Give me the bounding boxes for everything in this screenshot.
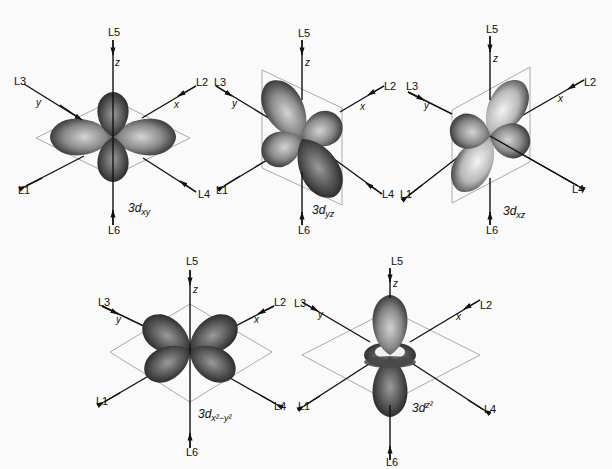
ligand-label-l4: L4 xyxy=(274,400,286,412)
panel-dyz: L5 z L3 y L2 x L1 L4 L6 3dyz xyxy=(214,27,396,236)
axis-label-z: z xyxy=(492,53,498,64)
axis-label-z: z xyxy=(192,284,198,295)
ligand-label-l6: L6 xyxy=(186,446,198,458)
ligand-label-l3: L3 xyxy=(14,75,26,87)
ligand-label-l4: L4 xyxy=(382,188,394,200)
ligand-label-l5: L5 xyxy=(108,26,120,38)
panel-dxz: L5 z L3 y L2 x L1 L4 L6 3dxz xyxy=(400,23,596,236)
ligand-label-l2: L2 xyxy=(274,296,286,308)
ligand-label-l5: L5 xyxy=(186,255,198,267)
ligand-label-l2: L2 xyxy=(480,299,492,311)
ligand-label-l3: L3 xyxy=(214,76,226,88)
caption-dx2-y2: 3dx²−y² xyxy=(198,407,233,423)
ligand-label-l6: L6 xyxy=(108,224,120,236)
ligand-label-l1: L1 xyxy=(298,400,310,412)
panel-dz2: L5 z L3 y L2 x L1 L4 L6 3dz² xyxy=(294,255,496,468)
ligand-label-l4: L4 xyxy=(198,188,210,200)
axis-label-x: x xyxy=(173,99,180,110)
axis-label-z: z xyxy=(304,57,310,68)
ligand-label-l5: L5 xyxy=(486,23,498,35)
ligand-label-l1: L1 xyxy=(18,184,30,196)
ligand-label-l4: L4 xyxy=(572,183,584,195)
ligand-label-l1: L1 xyxy=(96,395,108,407)
axis-label-z: z xyxy=(392,278,398,289)
ligand-label-l6: L6 xyxy=(386,456,398,468)
panel-dx2-y2: L5 z L3 y L2 x L1 L4 L6 3dx²−y² xyxy=(96,255,286,458)
axis-label-x: x xyxy=(359,101,366,112)
ligand-label-l5: L5 xyxy=(391,255,403,267)
caption-dxz: 3dxz xyxy=(503,204,526,220)
axis-label-y: y xyxy=(35,97,42,108)
ligand-label-l1: L1 xyxy=(216,184,228,196)
axis-label-x: x xyxy=(557,93,564,104)
axis-label-x: x xyxy=(455,311,462,322)
axis-label-z: z xyxy=(114,57,120,68)
ligand-label-l3: L3 xyxy=(406,80,418,92)
panel-dxy: L5 z L3 y L2 x L1 L4 L6 3dxy xyxy=(14,26,210,236)
axis-label-y: y xyxy=(115,314,122,325)
ligand-label-l5: L5 xyxy=(298,27,310,39)
ligand-label-l2: L2 xyxy=(384,80,396,92)
axis-label-y: y xyxy=(423,100,430,111)
ligand-label-l2: L2 xyxy=(196,76,208,88)
axis-label-y: y xyxy=(317,309,324,320)
ligand-label-l3: L3 xyxy=(294,297,306,309)
caption-dz2: 3dz² xyxy=(412,400,434,415)
ligand-label-l6: L6 xyxy=(486,224,498,236)
axis-label-x: x xyxy=(253,314,260,325)
ligand-label-l2: L2 xyxy=(584,76,596,88)
ligand-label-l1: L1 xyxy=(400,188,412,200)
ligand-label-l3: L3 xyxy=(98,296,110,308)
caption-dyz: 3dyz xyxy=(312,203,335,219)
d-orbital-diagram: L5 z L3 y L2 x L1 L4 L6 3dxy L5 z L3 y L… xyxy=(0,0,612,469)
caption-dxy: 3dxy xyxy=(128,201,151,217)
ligand-label-l6: L6 xyxy=(298,224,310,236)
axis-label-y: y xyxy=(231,98,238,109)
ligand-label-l4: L4 xyxy=(484,403,496,415)
